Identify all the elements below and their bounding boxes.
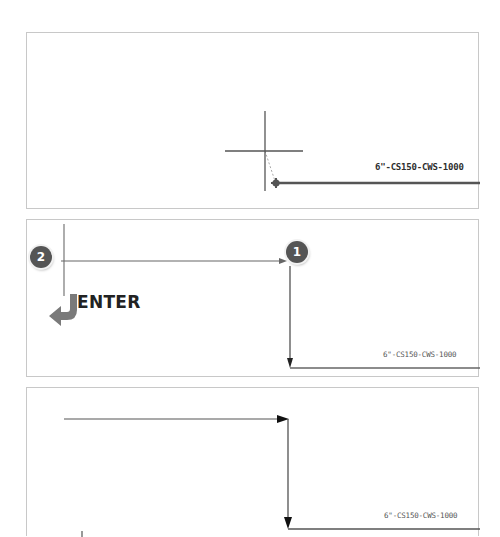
cad-viewport-step-2[interactable]: 2 1 ENTER 6"-CS150-CWS-1000	[26, 219, 479, 377]
pipe-tag-label: 6"-CS150-CWS-1000	[383, 350, 456, 359]
enter-key-label: ENTER	[77, 292, 141, 312]
arrowhead-icon	[284, 517, 292, 529]
arrowhead-icon	[277, 415, 289, 423]
drawing-canvas[interactable]	[27, 33, 480, 210]
pipe-tag-label: 6"-CS150-CWS-1000	[384, 511, 457, 520]
point-badge-1: 1	[286, 241, 308, 263]
cad-viewport-step-1[interactable]: 6"-CS150-CWS-1000	[26, 32, 479, 209]
pipe-tag-label: 6"-CS150-CWS-1000	[375, 162, 464, 172]
arrowhead-icon	[287, 358, 293, 368]
cad-viewport-step-3[interactable]: 6"-CS150-CWS-1000	[26, 387, 479, 536]
crosshair-icon	[225, 111, 303, 191]
grip-endpoint-icon[interactable]	[271, 178, 281, 188]
point-badge-2: 2	[30, 246, 52, 268]
arrowhead-icon	[279, 258, 287, 264]
